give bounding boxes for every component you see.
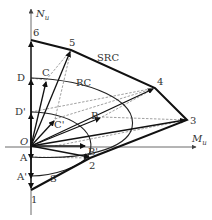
- point-6-label: 6: [33, 27, 39, 38]
- point-5-label: 5: [69, 37, 75, 48]
- src-label: SRC: [97, 52, 119, 63]
- point-2-label: 2: [89, 160, 95, 171]
- rc-label: RC: [76, 77, 92, 88]
- point-3-label: 3: [190, 115, 196, 126]
- n-axis-label: Nu: [35, 8, 50, 22]
- point-4-label: 4: [157, 76, 163, 87]
- point-d-prime-label: D': [15, 106, 26, 117]
- point-c-label: C: [42, 67, 50, 78]
- origin-label: O: [20, 136, 28, 147]
- point-a-label: A: [19, 152, 28, 163]
- m-axis-label: Mu: [191, 133, 207, 147]
- point-b-prime-label: B': [88, 146, 98, 157]
- s-label: S: [50, 173, 57, 184]
- interaction-diagram: Nu Mu O SRC RC S 6 5 4 3 2 1 D D' C C' B…: [0, 0, 212, 220]
- point-1-label: 1: [31, 194, 37, 205]
- point-a-prime-label: A': [16, 171, 27, 182]
- point-b-label: B: [91, 110, 98, 121]
- point-c-prime-label: C': [54, 119, 64, 130]
- point-d-label: D: [17, 72, 25, 83]
